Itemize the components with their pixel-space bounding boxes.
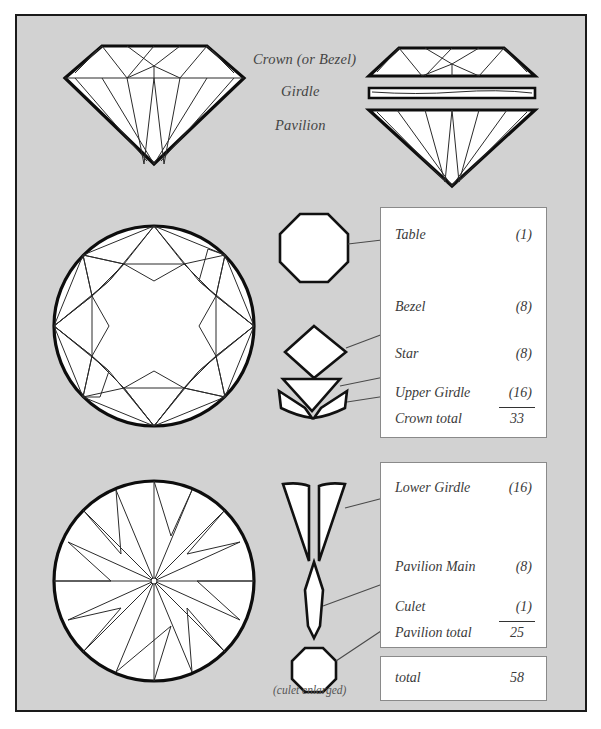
grand-total-label: total	[395, 670, 421, 686]
crown-total-value: 33	[510, 411, 524, 427]
grand-total-box: total 58	[380, 656, 547, 701]
crown-row-2-count: (8)	[516, 346, 532, 362]
pavilion-row-0-name: Lower Girdle	[395, 480, 470, 496]
pavilion-total-value: 25	[510, 625, 524, 641]
crown-row-1-name: Bezel	[395, 299, 425, 315]
pavilion-row-1-count: (8)	[516, 559, 532, 575]
pavilion-row-2-name: Culet	[395, 599, 425, 615]
crown-total-rule	[499, 407, 535, 408]
pavilion-total-label: Pavilion total	[395, 625, 472, 641]
crown-row-3-count: (16)	[509, 385, 532, 401]
crown-total-label: Crown total	[395, 411, 462, 427]
crown-row-0-name: Table	[395, 227, 426, 243]
crown-row-1-count: (8)	[516, 299, 532, 315]
pavilion-row-0-count: (16)	[509, 480, 532, 496]
pavilion-main-facet	[305, 562, 323, 638]
crown-row-2-name: Star	[395, 346, 418, 362]
pavilion-total-rule	[499, 621, 535, 622]
crown-row-0-count: (1)	[516, 227, 532, 243]
diamond-side-view	[65, 46, 244, 164]
crown-facet-count-box: Table (1) Bezel (8) Star (8) Upper Girdl…	[380, 207, 547, 438]
grand-total-value: 58	[510, 670, 524, 686]
bezel-facet-kite	[285, 326, 346, 378]
table-facet-octagon	[280, 214, 348, 282]
caption-culet-enlarged: (culet enlarged)	[273, 684, 346, 696]
diagram-frame: Crown (or Bezel) Girdle Pavilion	[15, 14, 587, 712]
lower-girdle-facet-pair	[283, 483, 345, 561]
crown-row-3-name: Upper Girdle	[395, 385, 470, 401]
pavilion-facet-count-box: Lower Girdle (16) Pavilion Main (8) Cule…	[380, 462, 547, 648]
pavilion-row-2-count: (1)	[516, 599, 532, 615]
pavilion-row-1-name: Pavilion Main	[395, 559, 476, 575]
